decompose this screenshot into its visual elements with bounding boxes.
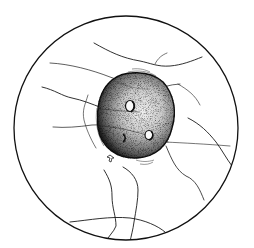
arrow-marker-icon	[107, 155, 114, 162]
microscope-field-illustration	[0, 0, 254, 248]
cell-body	[98, 73, 175, 158]
pit-lower-right	[145, 131, 153, 141]
figure-canvas: Microscope field of view: single spheric…	[0, 0, 254, 248]
pit-upper	[126, 101, 135, 113]
